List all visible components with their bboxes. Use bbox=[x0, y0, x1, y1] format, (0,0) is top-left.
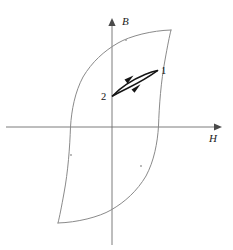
point-2-label: 2 bbox=[101, 91, 106, 102]
loop-tick-mark bbox=[70, 154, 72, 156]
hysteresis-figure: B H 1 2 bbox=[0, 0, 233, 250]
figure-background bbox=[0, 0, 233, 250]
h-axis-label: H bbox=[208, 132, 218, 144]
hysteresis-diagram-svg: B H 1 2 bbox=[0, 0, 233, 250]
loop-tick-mark bbox=[125, 39, 127, 41]
point-1-label: 1 bbox=[161, 65, 166, 76]
loop-tick-mark bbox=[140, 165, 142, 167]
b-axis-label: B bbox=[122, 15, 129, 27]
